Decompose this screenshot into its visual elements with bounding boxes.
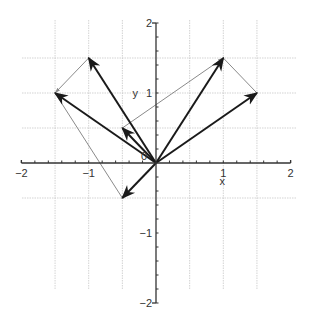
- x-axis-label: x: [220, 175, 226, 187]
- y-axis-label: y: [133, 87, 139, 99]
- axes: [21, 23, 290, 303]
- y-tick-label: −1: [139, 227, 152, 239]
- y-tick-label: 1: [146, 87, 152, 99]
- vector-arrow: [122, 128, 156, 163]
- y-tick-label: −2: [139, 297, 152, 309]
- vector-arrow: [122, 163, 156, 198]
- vector-arrow: [156, 93, 257, 163]
- x-tick-label: −2: [15, 167, 28, 179]
- y-tick-label: 2: [146, 17, 152, 29]
- origin-label: 0: [141, 150, 147, 162]
- x-tick-label: −1: [82, 167, 95, 179]
- thin-segment: [223, 58, 257, 93]
- grid-lines: [22, 20, 296, 290]
- vector-plot: −2−11221−1−2xy0: [0, 0, 312, 326]
- x-tick-label: 2: [288, 167, 294, 179]
- thin-segment: [55, 58, 89, 93]
